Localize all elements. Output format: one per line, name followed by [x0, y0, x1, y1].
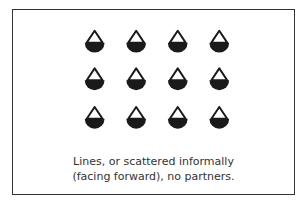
dancer-facing-forward-icon	[209, 107, 229, 129]
dancer-facing-forward-icon	[85, 68, 105, 90]
dancer-facing-forward-icon	[209, 31, 229, 53]
dancer-facing-forward-icon	[209, 68, 229, 90]
dancer-facing-forward-icon	[85, 107, 105, 129]
dancer-facing-forward-icon	[168, 31, 188, 53]
figure-caption: Lines, or scattered informally (facing f…	[13, 154, 294, 184]
caption-line-2: (facing forward), no partners.	[13, 169, 294, 184]
dancer-facing-forward-icon	[168, 68, 188, 90]
dancer-row-3	[85, 107, 229, 129]
dancer-row-1	[85, 31, 229, 53]
dancer-facing-forward-icon	[168, 107, 188, 129]
dancer-facing-forward-icon	[85, 31, 105, 53]
dancer-facing-forward-icon	[126, 31, 146, 53]
caption-line-1: Lines, or scattered informally	[13, 154, 294, 169]
diagram-frame: Lines, or scattered informally (facing f…	[12, 9, 295, 195]
dancer-facing-forward-icon	[126, 68, 146, 90]
dancer-facing-forward-icon	[126, 107, 146, 129]
dancer-row-2	[85, 68, 229, 90]
